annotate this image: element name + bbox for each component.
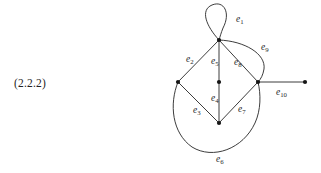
edge-e6 [173, 82, 260, 152]
edge-label-e6: e6 [216, 154, 224, 165]
edge-label-e9: e9 [261, 42, 269, 53]
edge-label-e3: e3 [193, 105, 201, 116]
vertex-right [256, 80, 260, 84]
edge-e1-loop [206, 4, 227, 40]
vertex-left [176, 80, 180, 84]
graph-diagram: e1 e2 e3 e4 e5 e6 e7 e8 e9 e10 [0, 0, 321, 173]
edge-label-e4: e4 [211, 93, 219, 104]
edge-label-e1: e1 [236, 14, 244, 25]
edge-label-e8: e8 [234, 57, 242, 68]
edge-label-e2: e2 [186, 54, 194, 65]
vertex-center [217, 80, 221, 84]
edge-e7 [219, 82, 258, 123]
vertex-far-right [303, 80, 307, 84]
edge-label-e5: e5 [211, 56, 219, 67]
edge-label-e10: e10 [276, 87, 288, 98]
vertex-bottom [217, 121, 221, 125]
figure-container: (2.2.2) e1 e2 e3 e4 [0, 0, 321, 173]
edge-label-e7: e7 [238, 104, 246, 115]
vertex-top [217, 38, 221, 42]
